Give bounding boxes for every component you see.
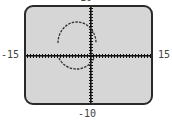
graph-plot xyxy=(26,7,153,105)
ymin-label: -10 xyxy=(78,109,96,119)
y-axis xyxy=(89,7,93,105)
xmax-label: 15 xyxy=(158,50,170,60)
lower-arc xyxy=(59,58,94,69)
xmin-label: -15 xyxy=(1,50,19,60)
calculator-screen xyxy=(24,5,153,105)
ymax-label: 10 xyxy=(80,0,92,3)
